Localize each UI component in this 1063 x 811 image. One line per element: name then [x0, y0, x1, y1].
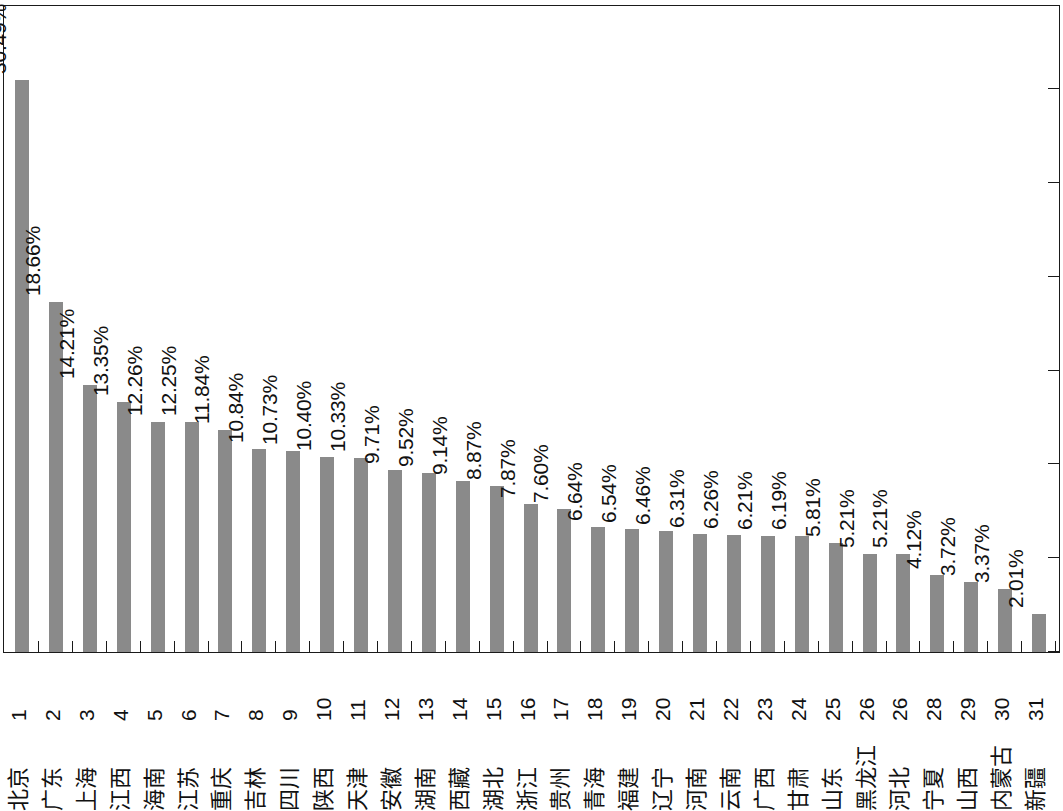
rank-label: 31 — [1021, 655, 1055, 701]
value-axis-tick — [1048, 463, 1059, 464]
category-axis-item: 15湖北 — [479, 655, 513, 782]
bar-value-label: 6.64% — [563, 463, 587, 522]
bar-value-label: 10.33% — [326, 382, 350, 452]
value-axis-tick — [1048, 88, 1059, 89]
rank-label: 15 — [479, 655, 513, 701]
category-axis-item: 26黑龙江 — [852, 655, 886, 782]
bar-value-label: 6.19% — [767, 471, 791, 530]
rank-label: 17 — [546, 655, 580, 701]
bar-value-label: 14.21% — [55, 309, 79, 379]
category-label-text: 辽宁 — [644, 767, 676, 811]
bar — [151, 422, 165, 652]
category-tick — [547, 641, 548, 652]
category-label-text: 上海 — [68, 767, 100, 811]
category-label: 广西 — [750, 703, 784, 782]
category-label-text: 山西 — [949, 767, 981, 811]
bar — [557, 509, 571, 652]
category-axis-item: 13湖南 — [411, 655, 445, 782]
category-label: 西藏 — [445, 703, 479, 782]
category-label: 北京 — [4, 703, 38, 782]
category-tick — [648, 641, 649, 652]
category-label-text: 宁夏 — [915, 767, 947, 811]
category-label-text: 新疆 — [1017, 767, 1049, 811]
rank-label: 28 — [919, 655, 953, 701]
category-axis-item: 17贵州 — [546, 655, 580, 782]
category-tick — [987, 641, 988, 652]
rank-label: 25 — [818, 655, 852, 701]
bar-value-label: 9.71% — [360, 405, 384, 464]
rank-label: 23 — [750, 655, 784, 701]
category-tick — [343, 641, 344, 652]
category-axis-item: 1北京 — [4, 655, 38, 782]
category-label-text: 西藏 — [441, 767, 473, 811]
rank-label: 18 — [580, 655, 614, 701]
category-tick — [580, 641, 581, 652]
bar-value-label: 5.21% — [868, 490, 892, 549]
category-label: 湖北 — [479, 703, 513, 782]
category-tick — [919, 641, 920, 652]
rank-label: 12 — [377, 655, 411, 701]
category-axis-item: 9四川 — [275, 655, 309, 782]
bar — [456, 481, 470, 652]
rank-label: 26 — [852, 655, 886, 701]
category-label-text: 山东 — [814, 767, 846, 811]
rank-label: 20 — [648, 655, 682, 701]
rank-label: 24 — [784, 655, 818, 701]
plot-area: 30.49%18.66%14.21%13.35%12.26%12.25%11.8… — [4, 6, 1059, 652]
bar — [286, 451, 300, 652]
category-label: 陕西 — [309, 703, 343, 782]
bar-value-label: 6.26% — [699, 470, 723, 529]
category-label: 安徽 — [377, 703, 411, 782]
rank-label: 5 — [140, 655, 174, 701]
bar-value-label: 3.37% — [970, 524, 994, 583]
category-label-text: 青海 — [576, 767, 608, 811]
bar-value-label: 18.66% — [21, 226, 45, 296]
category-label: 上海 — [72, 703, 106, 782]
bar-value-label: 4.12% — [902, 510, 926, 569]
category-axis-labels: 1北京2广东3上海4江西5海南6江苏7重庆8吉林9四川10陕西11天津12安徽1… — [3, 655, 1060, 782]
category-label-text: 天津 — [339, 767, 371, 811]
category-label-text: 安徽 — [373, 767, 405, 811]
category-axis-item: 8吉林 — [241, 655, 275, 782]
category-axis-item: 12安徽 — [377, 655, 411, 782]
bar-value-label: 11.84% — [190, 355, 214, 423]
category-axis-item: 31新疆 — [1021, 655, 1055, 782]
rank-label: 11 — [343, 655, 377, 701]
rank-label: 30 — [987, 655, 1021, 701]
category-label-text: 江苏 — [170, 767, 202, 811]
category-label-text: 北京 — [0, 767, 32, 811]
category-axis-item: 26河北 — [885, 655, 919, 782]
category-label: 辽宁 — [648, 703, 682, 782]
category-label-text: 江西 — [102, 767, 134, 811]
bar-value-label: 12.25% — [157, 346, 181, 416]
bar — [490, 486, 504, 652]
category-label-text: 广西 — [746, 767, 778, 811]
category-label: 海南 — [140, 703, 174, 782]
bar-value-label: 8.87% — [462, 421, 486, 480]
bar — [795, 536, 809, 652]
category-label: 江西 — [106, 703, 140, 782]
category-label-text: 河北 — [881, 767, 913, 811]
category-label: 广东 — [38, 703, 72, 782]
rank-label: 1 — [4, 655, 38, 701]
bar — [1032, 614, 1046, 652]
value-axis-tick — [1048, 557, 1059, 558]
category-axis-item: 23广西 — [750, 655, 784, 782]
category-tick — [106, 641, 107, 652]
bar — [693, 534, 707, 652]
category-axis-item: 30内蒙古 — [987, 655, 1021, 782]
bar — [863, 554, 877, 652]
rank-label: 21 — [682, 655, 716, 701]
category-axis-item: 25山东 — [818, 655, 852, 782]
rank-label: 13 — [411, 655, 445, 701]
bar-value-label: 5.21% — [835, 490, 859, 549]
bar-value-label: 7.60% — [529, 445, 553, 504]
category-tick — [784, 641, 785, 652]
category-label-text: 广东 — [34, 767, 66, 811]
category-label: 内蒙古 — [987, 703, 1021, 782]
category-axis-item: 5海南 — [140, 655, 174, 782]
category-axis-item: 20辽宁 — [648, 655, 682, 782]
category-tick — [953, 641, 954, 652]
bar — [625, 529, 639, 652]
